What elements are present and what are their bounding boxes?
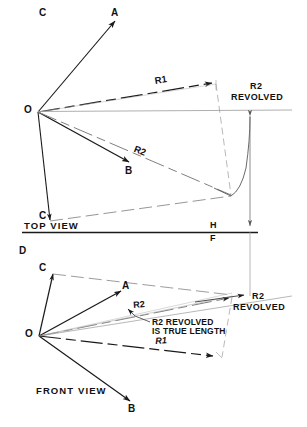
front-view-r2-revolved-label-line1: R2	[252, 292, 264, 301]
dimension-r1-front	[39, 336, 213, 356]
top-view-group	[38, 21, 292, 226]
vector-oa-top	[38, 21, 115, 112]
front-view-name-label: FRONT VIEW	[36, 386, 107, 396]
convergence-leg-top	[214, 188, 231, 196]
revolved-r2-arrow-front	[195, 295, 244, 302]
top-view-r2-revolved-label-line1: R2	[250, 82, 262, 91]
top-view-step-label: C	[39, 8, 46, 19]
front-view-r1-label: R1	[155, 336, 167, 346]
projector-r1-top	[216, 84, 231, 195]
vector-ob-top	[38, 112, 129, 162]
front-view-r2-label: R2	[133, 300, 145, 310]
top-view-name-label: TOP VIEW	[24, 221, 79, 231]
vector-oc-top	[38, 112, 50, 220]
top-view-point-a-label: A	[111, 8, 118, 19]
tick-r1-tip-front	[216, 352, 222, 358]
front-view-r2-revolved-label-line2: REVOLVED	[233, 303, 285, 312]
top-view-point-b-label: B	[125, 166, 132, 177]
front-view-point-o-label: O	[25, 329, 33, 340]
construction-c-to-convergence-top	[50, 196, 231, 221]
fold-line-f-label: F	[210, 234, 216, 243]
top-view-point-o-label: O	[24, 105, 32, 116]
front-view-note-line2: IS TRUE LENGTH	[152, 327, 226, 337]
front-view-step-label: D	[19, 246, 26, 257]
top-view-r2-revolved-label-line2: REVOLVED	[231, 93, 283, 102]
front-view-point-a-label: A	[122, 281, 129, 292]
front-view-point-b-label: B	[128, 404, 135, 415]
revolution-arc-top	[231, 117, 250, 196]
vector-oc-front	[39, 274, 53, 336]
construction-horizontal-top	[38, 110, 292, 112]
front-view-point-c-label: C	[39, 263, 46, 274]
drawing-page: C A O B C R1 R2 R2 REVOLVED TOP VIEW H F…	[0, 0, 307, 427]
fold-line-h-label: H	[210, 221, 217, 230]
construction-c-to-convergence-front	[53, 274, 232, 295]
construction-oa-helper-top	[38, 84, 216, 112]
top-view-r1-label: R1	[154, 74, 168, 86]
